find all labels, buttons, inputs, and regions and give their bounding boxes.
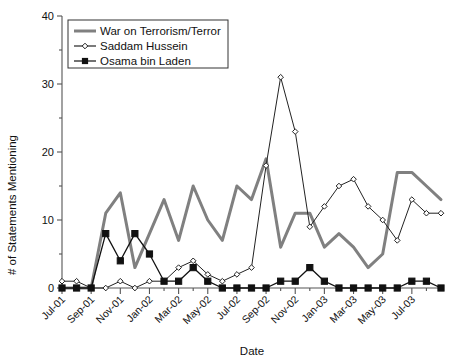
data-point-marker [409,278,415,284]
data-point-marker [321,278,327,284]
data-point-marker [380,285,386,291]
line-chart: 010203040 Jul-01Sep-01Nov-01Jan-02Mar-02… [0,0,452,361]
data-point-marker [234,285,240,291]
data-point-marker [394,285,400,291]
x-tick-label: Nov-02 [268,293,301,326]
y-tick-label: 30 [42,78,54,90]
x-tick-label: Mar-02 [152,293,184,325]
data-point-marker [336,285,342,291]
chart-legend: War on Terrorism/TerrorSaddam HusseinOsa… [68,20,228,68]
legend-label: Osama bin Laden [100,55,191,67]
data-point-marker [205,278,211,284]
data-point-marker [351,176,357,182]
y-tick-label: 20 [42,146,54,158]
x-tick-label: May-02 [180,293,213,326]
data-point-marker [190,265,196,271]
data-point-marker [103,285,109,291]
data-point-marker [234,272,240,278]
data-point-marker [292,129,298,135]
data-point-marker [263,285,269,291]
data-point-marker [103,231,109,237]
data-point-marker [118,278,124,284]
data-point-marker [74,278,80,284]
x-tick-label: Jan-03 [299,293,330,324]
data-point-marker [88,285,94,291]
y-axis-title: # of Statements Mentioning [6,135,18,275]
x-axis-title: Date [240,345,264,357]
data-point-marker [249,265,255,271]
data-point-marker [423,278,429,284]
data-point-marker [132,285,138,291]
x-tick-label: Jan-02 [124,293,155,324]
data-point-marker [147,278,153,284]
x-tick-label: Sep-01 [64,293,97,326]
y-tick-label: 0 [48,282,54,294]
x-tick-label: May-03 [355,293,388,326]
legend-label: War on Terrorism/Terror [100,25,221,37]
data-point-marker [219,285,225,291]
data-point-marker [438,285,444,291]
data-point-marker [307,265,313,271]
y-tick-label: 40 [42,10,54,22]
data-point-marker [350,285,356,291]
data-point-marker [161,278,167,284]
data-point-marker [438,210,444,216]
x-tick-label: Jul-02 [214,293,243,322]
data-point-marker [132,231,138,237]
series-line [62,77,441,288]
x-tick-label: Jul-01 [39,293,68,322]
data-point-marker [278,278,284,284]
data-point-marker [365,285,371,291]
data-point-marker [117,258,123,264]
x-axis: Jul-01Sep-01Nov-01Jan-02Mar-02May-02Jul-… [39,288,441,326]
data-point-marker [59,285,65,291]
data-point-marker [248,285,254,291]
data-point-marker [146,251,152,257]
data-point-marker [73,285,79,291]
x-tick-label: Sep-02 [239,293,272,326]
data-point-marker [220,278,226,284]
chart-container: 010203040 Jul-01Sep-01Nov-01Jan-02Mar-02… [0,0,452,361]
chart-series-group [59,74,444,291]
y-axis: 010203040 [42,10,62,294]
x-tick-label: Mar-03 [327,293,359,325]
x-tick-label: Jul-03 [389,293,418,322]
data-point-marker [278,74,284,80]
data-point-marker [59,278,65,284]
legend-marker [82,58,88,64]
data-point-marker [292,278,298,284]
x-tick-label: Nov-01 [93,293,126,326]
legend-label: Saddam Hussein [100,40,188,52]
data-point-marker [176,278,182,284]
y-tick-label: 10 [42,214,54,226]
